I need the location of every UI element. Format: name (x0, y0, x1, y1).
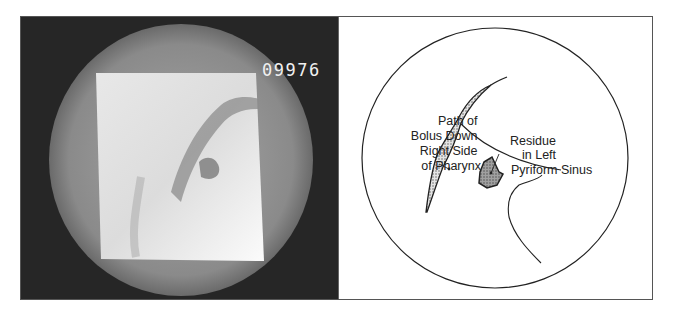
frame-counter: 09976 (262, 60, 321, 80)
pharynx-diagram: Path of Bolus Down Right Side of Pharynx… (339, 17, 653, 299)
fluoroscopy-image: 09976 (21, 17, 338, 299)
anatomy-diagram: Path of Bolus Down Right Side of Pharynx… (338, 17, 652, 299)
figure-frame: 09976 (20, 16, 653, 300)
viewfield-circle (362, 28, 628, 288)
residue-label: Residue in Left Pyriform Sinus (510, 134, 592, 177)
bolus-path-label: Path of Bolus Down Right Side of Pharynx (411, 114, 482, 173)
